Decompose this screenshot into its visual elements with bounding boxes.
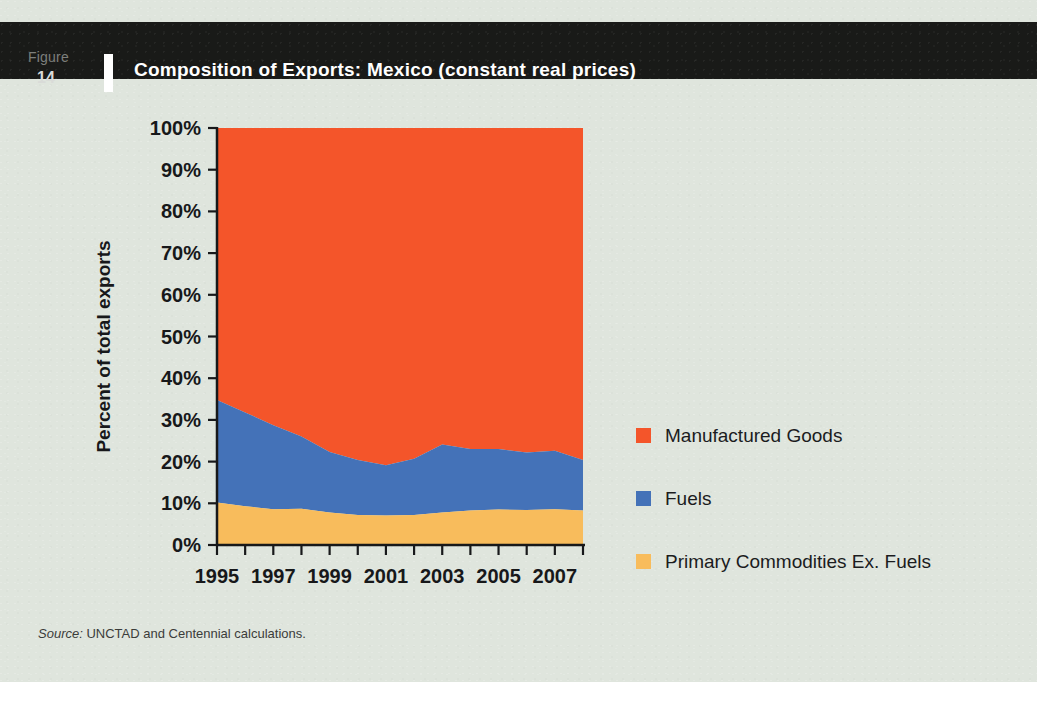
x-tick-label: 1997 bbox=[251, 565, 296, 587]
source-text: UNCTAD and Centennial calculations. bbox=[86, 626, 305, 641]
y-tick-label: 80% bbox=[161, 200, 201, 222]
figure-label: Figure bbox=[28, 49, 69, 65]
legend-label-fuels: Fuels bbox=[665, 485, 933, 512]
legend-item-fuels: Fuels bbox=[636, 485, 956, 512]
area-series-manufactured bbox=[217, 128, 583, 465]
figure-card: Figure 14 Composition of Exports: Mexico… bbox=[0, 0, 1037, 682]
legend-label-manufactured: Manufactured Goods bbox=[665, 422, 933, 449]
y-tick-label: 90% bbox=[161, 159, 201, 181]
y-tick-label: 20% bbox=[161, 451, 201, 473]
x-tick-label: 1995 bbox=[195, 565, 240, 587]
x-tick-labels-group: 1995199719992001200320052007 bbox=[195, 565, 577, 587]
x-tick-label: 2003 bbox=[420, 565, 465, 587]
x-tick-label: 2005 bbox=[476, 565, 521, 587]
y-tick-labels-group: 0%10%20%30%40%50%60%70%80%90%100% bbox=[150, 117, 201, 556]
y-tick-label: 10% bbox=[161, 492, 201, 514]
chart-area: 0%10%20%30%40%50%60%70%80%90%100% 199519… bbox=[0, 79, 1037, 682]
legend-label-primary: Primary Commodities Ex. Fuels bbox=[665, 548, 933, 575]
y-tick-label: 30% bbox=[161, 409, 201, 431]
chart-legend: Manufactured Goods Fuels Primary Commodi… bbox=[636, 422, 956, 611]
figure-title: Composition of Exports: Mexico (constant… bbox=[134, 59, 636, 81]
x-tick-label: 1999 bbox=[307, 565, 352, 587]
y-tick-label: 70% bbox=[161, 242, 201, 264]
legend-swatch-manufactured-icon bbox=[636, 428, 651, 443]
y-axis-title-group: Percent of total exports bbox=[93, 240, 114, 452]
legend-swatch-fuels-icon bbox=[636, 491, 651, 506]
legend-item-manufactured: Manufactured Goods bbox=[636, 422, 956, 449]
y-tick-label: 100% bbox=[150, 117, 201, 139]
source-label: Source: bbox=[38, 626, 83, 641]
y-axis-title: Percent of total exports bbox=[93, 240, 114, 452]
legend-swatch-primary-icon bbox=[636, 554, 651, 569]
source-note: Source: UNCTAD and Centennial calculatio… bbox=[38, 626, 306, 641]
y-tick-label: 60% bbox=[161, 284, 201, 306]
y-tick-label: 0% bbox=[172, 534, 201, 556]
x-tick-label: 2007 bbox=[533, 565, 578, 587]
legend-item-primary: Primary Commodities Ex. Fuels bbox=[636, 548, 956, 575]
y-tick-label: 50% bbox=[161, 326, 201, 348]
figure-header-bar: Figure 14 Composition of Exports: Mexico… bbox=[0, 22, 1037, 79]
y-tick-label: 40% bbox=[161, 367, 201, 389]
chart-series-group bbox=[217, 128, 583, 545]
x-tick-label: 2001 bbox=[364, 565, 409, 587]
